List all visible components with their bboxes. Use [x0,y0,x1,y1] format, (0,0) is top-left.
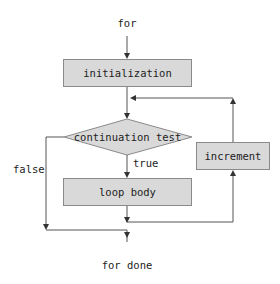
edge-condition-to-body [124,155,130,178]
edge-initialization-to-condition [124,87,130,119]
arrowhead-icon [230,170,236,176]
node-increment: increment [197,143,270,170]
arrowhead-icon [130,95,136,101]
node-initialization: initialization [64,60,192,87]
continuation-test-label: continuation test [74,131,181,143]
arrowhead-icon [124,232,130,238]
loop-body-label: loop body [99,186,156,198]
for-loop-flowchart: for initialization continuation test tru… [0,0,280,284]
start-label: for [118,17,137,29]
end-label: for done [102,259,153,271]
node-loop-body: loop body [64,179,192,206]
true-label: true [133,157,158,169]
false-label: false [13,163,45,175]
arrowhead-icon [124,113,130,119]
initialization-label: initialization [83,67,172,79]
arrowhead-icon [124,53,130,59]
arrowhead-icon [230,98,236,104]
increment-label: increment [205,150,262,162]
arrowhead-icon [43,224,49,230]
edge-start-to-initialization [124,36,130,59]
node-continuation-test: continuation test [64,119,192,155]
arrowhead-icon [124,172,130,178]
